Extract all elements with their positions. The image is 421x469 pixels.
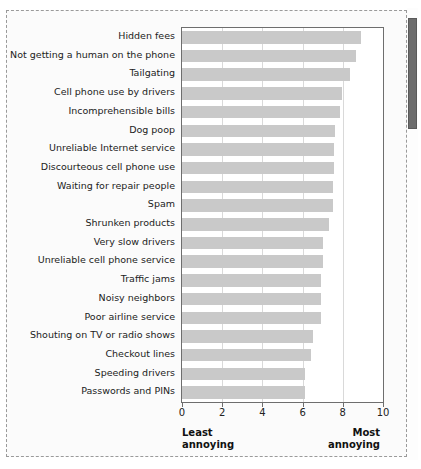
xtick-label-4: 4 — [259, 407, 265, 418]
bar-row — [182, 365, 383, 384]
category-label: Unreliable cell phone service — [38, 251, 175, 270]
bar — [182, 50, 356, 63]
category-label: Waiting for repair people — [57, 177, 175, 196]
bar-row — [182, 383, 383, 402]
bar — [182, 368, 305, 381]
bar — [182, 31, 361, 44]
bar — [182, 274, 321, 287]
bar-row — [182, 28, 383, 47]
least-annoying-caption: Least annoying — [182, 427, 234, 450]
bar — [182, 199, 333, 212]
bar-row — [182, 252, 383, 271]
category-label: Dog poop — [129, 121, 175, 140]
bar-row — [182, 196, 383, 215]
bar — [182, 162, 334, 175]
bar-row — [182, 159, 383, 178]
category-label: Traffic jams — [121, 270, 175, 289]
bar — [182, 68, 350, 81]
xtick-label-6: 6 — [299, 407, 305, 418]
chart-figure: Hidden feesNot getting a human on the ph… — [6, 10, 407, 457]
bar-row — [182, 122, 383, 141]
category-label: Checkout lines — [105, 345, 175, 364]
value-axis: 0246810 — [181, 403, 384, 419]
category-label: Cell phone use by drivers — [54, 83, 175, 102]
category-axis-labels: Hidden feesNot getting a human on the ph… — [7, 27, 175, 401]
bar-row — [182, 309, 383, 328]
bar-row — [182, 65, 383, 84]
bar — [182, 87, 342, 100]
bar — [182, 106, 340, 119]
most-annoying-caption: Most annoying — [328, 427, 380, 450]
bar-row — [182, 327, 383, 346]
bar — [182, 255, 323, 268]
category-label: Discourteous cell phone use — [41, 158, 175, 177]
bar — [182, 386, 305, 399]
category-label: Tailgating — [129, 64, 175, 83]
bar-row — [182, 215, 383, 234]
bar — [182, 349, 311, 362]
bar — [182, 125, 335, 138]
category-label: Hidden fees — [118, 27, 175, 46]
bar-row — [182, 103, 383, 122]
bar-row — [182, 290, 383, 309]
category-label: Shouting on TV or radio shows — [30, 326, 175, 345]
category-label: Not getting a human on the phone — [10, 46, 175, 65]
bar — [182, 293, 321, 306]
bar-row — [182, 84, 383, 103]
bar-row — [182, 47, 383, 66]
bar-row — [182, 346, 383, 365]
bar — [182, 181, 333, 194]
bar — [182, 237, 323, 250]
category-label: Shrunken products — [85, 214, 175, 233]
bar-row — [182, 234, 383, 253]
bar — [182, 218, 329, 231]
bar — [182, 330, 313, 343]
category-label: Passwords and PINs — [81, 382, 175, 401]
bar — [182, 143, 334, 156]
xtick-label-2: 2 — [219, 407, 225, 418]
scrollbar-thumb[interactable] — [408, 18, 417, 129]
least-annoying-line1: Least — [182, 427, 234, 439]
bar-row — [182, 140, 383, 159]
bar-row — [182, 271, 383, 290]
xtick-label-0: 0 — [179, 407, 185, 418]
category-label: Incomprehensible bills — [68, 102, 175, 121]
plot-area — [181, 27, 384, 403]
least-annoying-line2: annoying — [182, 439, 234, 451]
category-label: Speeding drivers — [95, 364, 175, 383]
category-label: Very slow drivers — [94, 233, 175, 252]
category-label: Unreliable Internet service — [49, 139, 175, 158]
xtick-label-8: 8 — [340, 407, 346, 418]
xtick-label-10: 10 — [377, 407, 390, 418]
bar-series — [182, 28, 383, 402]
category-label: Noisy neighbors — [99, 289, 175, 308]
bar — [182, 312, 321, 325]
category-label: Spam — [148, 195, 175, 214]
bar-row — [182, 178, 383, 197]
most-annoying-line1: Most — [328, 427, 380, 439]
category-label: Poor airline service — [84, 308, 175, 327]
most-annoying-line2: annoying — [328, 439, 380, 451]
